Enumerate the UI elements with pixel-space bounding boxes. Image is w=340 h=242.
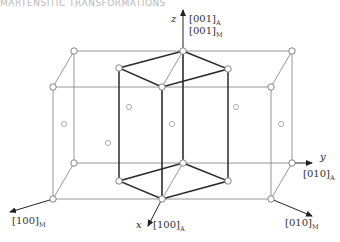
y-label-austenite: [010]A: [303, 168, 335, 182]
z-label-martensite: [001]M: [189, 25, 223, 39]
axes: [10, 10, 312, 226]
y-axis-letter: y: [319, 151, 326, 162]
m100-axis-arrow: [10, 199, 53, 212]
m100-label: [100]M: [12, 215, 46, 229]
face-center-atoms: [61, 104, 283, 145]
m010-axis-arrow: [271, 199, 312, 216]
crystal-lattice-diagram: z [001]A [001]M y [010]A x [100]A [100]M…: [0, 0, 340, 242]
x-axis-letter: x: [136, 219, 142, 230]
x-label-austenite: [100]A: [153, 219, 185, 233]
m010-label: [010]M: [285, 217, 319, 231]
z-axis-letter: z: [170, 13, 177, 24]
